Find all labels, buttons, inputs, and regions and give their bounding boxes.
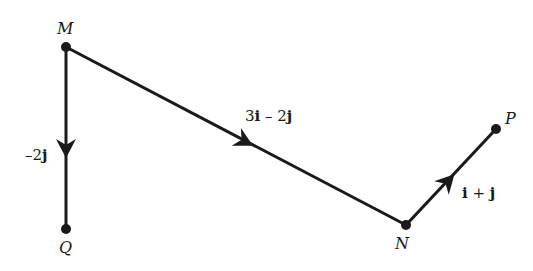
point-P <box>491 124 501 134</box>
vector-label-MQ: –2j <box>25 146 47 164</box>
point-M <box>61 42 71 52</box>
label-M: M <box>56 19 74 38</box>
vector-label-MN: 3i – 2j <box>245 107 292 125</box>
label-N: N <box>394 234 410 253</box>
point-N <box>401 220 411 230</box>
label-P: P <box>504 109 516 128</box>
label-Q: Q <box>59 238 72 257</box>
arrow-MN-icon <box>232 128 258 155</box>
vector-diagram: M Q N P –2j 3i – 2j i + j <box>0 0 533 271</box>
point-Q <box>61 224 71 234</box>
vector-label-NP: i + j <box>462 184 495 202</box>
segment-MN <box>66 47 406 225</box>
